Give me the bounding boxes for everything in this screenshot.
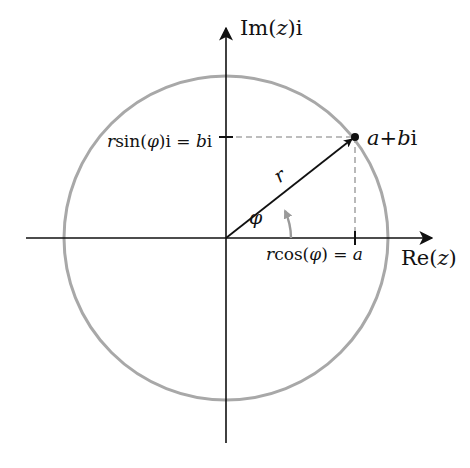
imag-projection-label: rsin(φ)i = bi: [107, 133, 212, 150]
label-part: i: [411, 126, 418, 150]
angle-label: φ: [249, 208, 262, 227]
label-part: ) =: [321, 244, 353, 264]
label-part: ): [449, 246, 457, 270]
label-part: sin(: [115, 131, 147, 151]
label-var: φ: [147, 131, 159, 151]
angle-arc: [285, 211, 291, 238]
label-part: Re(: [401, 246, 437, 270]
real-projection-label: rcos(φ) = a: [266, 246, 363, 263]
label-var: a: [353, 244, 363, 264]
label-var: b: [196, 131, 207, 151]
label-var: z: [437, 246, 448, 270]
label-part: )i =: [159, 131, 196, 151]
label-part: +: [380, 126, 398, 150]
complex-plane-diagram: [0, 0, 470, 468]
label-part: cos(: [274, 244, 309, 264]
complex-point: [351, 133, 359, 141]
label-part: Im(: [240, 16, 276, 40]
label-var: a: [367, 126, 380, 150]
label-var: z: [276, 16, 287, 40]
real-axis-label: Re(z): [401, 248, 457, 269]
point-label: a+bi: [367, 128, 417, 149]
label-part: i: [207, 131, 212, 151]
label-var: r: [107, 131, 115, 151]
label-part: )i: [287, 16, 302, 40]
label-var: φ: [309, 244, 321, 264]
label-var: r: [266, 244, 274, 264]
imaginary-axis-label: Im(z)i: [240, 18, 302, 39]
label-var: b: [397, 126, 410, 150]
